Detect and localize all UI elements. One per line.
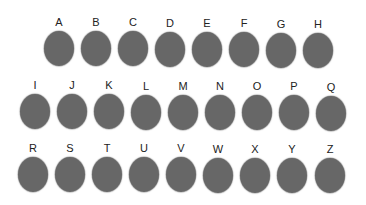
- circle-icon[interactable]: [118, 31, 148, 66]
- letter-label: N: [203, 80, 237, 92]
- letter-slot-s[interactable]: S: [53, 142, 87, 194]
- letter-slot-m[interactable]: M: [166, 80, 200, 132]
- letter-label: H: [301, 18, 335, 30]
- letter-label: J: [55, 79, 89, 91]
- letter-slot-a[interactable]: A: [42, 16, 76, 68]
- letter-label: E: [190, 17, 224, 29]
- circle-icon[interactable]: [277, 158, 307, 193]
- circle-icon[interactable]: [242, 95, 272, 130]
- letter-slot-e[interactable]: E: [190, 17, 224, 69]
- letter-label: F: [227, 17, 261, 29]
- circle-icon[interactable]: [94, 94, 124, 129]
- letter-slot-j[interactable]: J: [55, 79, 89, 131]
- letter-label: S: [53, 142, 87, 154]
- letter-label: G: [264, 18, 298, 30]
- letter-slot-k[interactable]: K: [92, 79, 126, 131]
- letter-slot-g[interactable]: G: [264, 18, 298, 70]
- letter-slot-p[interactable]: P: [277, 80, 311, 132]
- circle-icon[interactable]: [92, 157, 122, 192]
- letter-label: P: [277, 80, 311, 92]
- letter-slot-i[interactable]: I: [18, 79, 52, 131]
- letter-label: T: [90, 142, 124, 154]
- letter-slot-x[interactable]: X: [238, 143, 272, 195]
- letter-slot-t[interactable]: T: [90, 142, 124, 194]
- circle-icon[interactable]: [266, 33, 296, 68]
- circle-icon[interactable]: [203, 158, 233, 193]
- letter-slot-o[interactable]: O: [240, 80, 274, 132]
- circle-icon[interactable]: [55, 157, 85, 192]
- letter-slot-d[interactable]: D: [153, 17, 187, 69]
- letter-slot-f[interactable]: F: [227, 17, 261, 69]
- letter-slot-b[interactable]: B: [79, 16, 113, 68]
- letter-slot-w[interactable]: W: [201, 143, 235, 195]
- letter-label: U: [127, 142, 161, 154]
- circle-icon[interactable]: [57, 94, 87, 129]
- letter-label: R: [16, 142, 50, 154]
- letter-slot-l[interactable]: L: [129, 80, 163, 132]
- letter-slot-h[interactable]: H: [301, 18, 335, 70]
- letter-label: Z: [313, 143, 347, 155]
- letter-slot-r[interactable]: R: [16, 142, 50, 194]
- letter-label: C: [116, 16, 150, 28]
- letter-label: L: [129, 80, 163, 92]
- letter-label: Q: [314, 81, 348, 93]
- letter-slot-v[interactable]: V: [164, 142, 198, 194]
- letter-slot-n[interactable]: N: [203, 80, 237, 132]
- circle-icon[interactable]: [20, 94, 50, 129]
- circle-icon[interactable]: [315, 158, 345, 193]
- letter-label: W: [201, 143, 235, 155]
- letter-slot-c[interactable]: C: [116, 16, 150, 68]
- letter-label: V: [164, 142, 198, 154]
- letter-label: Y: [275, 143, 309, 155]
- circle-icon[interactable]: [303, 33, 333, 68]
- circle-icon[interactable]: [18, 157, 48, 192]
- letter-slot-u[interactable]: U: [127, 142, 161, 194]
- circle-icon[interactable]: [240, 158, 270, 193]
- letter-label: M: [166, 80, 200, 92]
- circle-icon[interactable]: [44, 31, 74, 66]
- circle-icon[interactable]: [131, 95, 161, 130]
- circle-icon[interactable]: [316, 96, 346, 131]
- letter-label: I: [18, 79, 52, 91]
- circle-icon[interactable]: [229, 32, 259, 67]
- letter-slot-z[interactable]: Z: [313, 143, 347, 195]
- circle-icon[interactable]: [168, 95, 198, 130]
- letter-label: O: [240, 80, 274, 92]
- letter-label: D: [153, 17, 187, 29]
- circle-icon[interactable]: [166, 157, 196, 192]
- circle-icon[interactable]: [279, 95, 309, 130]
- circle-icon[interactable]: [205, 95, 235, 130]
- circle-icon[interactable]: [155, 32, 185, 67]
- letter-label: B: [79, 16, 113, 28]
- letter-label: X: [238, 143, 272, 155]
- letter-label: K: [92, 79, 126, 91]
- letter-label: A: [42, 16, 76, 28]
- circle-icon[interactable]: [129, 157, 159, 192]
- letter-slot-y[interactable]: Y: [275, 143, 309, 195]
- circle-icon[interactable]: [81, 31, 111, 66]
- letter-slot-q[interactable]: Q: [314, 81, 348, 133]
- circle-icon[interactable]: [192, 32, 222, 67]
